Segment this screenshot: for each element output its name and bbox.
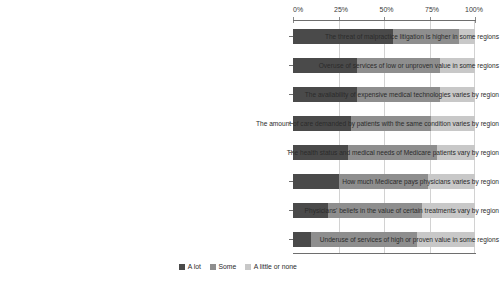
y-axis-tick <box>289 210 293 211</box>
y-axis-tick <box>289 152 293 153</box>
y-axis-tick <box>289 181 293 182</box>
category-label: The health status and medical needs of M… <box>216 149 503 157</box>
legend-label: A lot <box>188 263 201 270</box>
legend-item[interactable]: A little or none <box>245 263 297 270</box>
category-label: Overuse of services of low or unproven v… <box>216 62 503 70</box>
x-tick-label-50: 50% <box>380 6 394 13</box>
category-label: How much Medicare pays physicians varies… <box>216 178 503 186</box>
plot-area <box>293 21 475 253</box>
legend-item[interactable]: A lot <box>179 263 201 270</box>
legend-label: A little or none <box>254 263 297 270</box>
category-label: Underuse of services of high or proven v… <box>216 236 503 244</box>
bar-rows <box>293 21 475 253</box>
x-tick-label-100: 100% <box>465 6 483 13</box>
category-label: The amount of care demanded by patients … <box>216 120 503 128</box>
y-axis-tick <box>289 239 293 240</box>
x-tick-label-75: 75% <box>425 6 439 13</box>
legend-swatch-icon <box>245 264 251 270</box>
y-axis-tick <box>289 94 293 95</box>
stacked-bar-chart: 0% 25% 50% 75% 100% The threat of malpra… <box>0 0 503 283</box>
y-axis-tick <box>289 123 293 124</box>
category-label: The threat of malpractice litigation is … <box>216 33 503 41</box>
x-tick-label-0: 0% <box>293 6 303 13</box>
legend-swatch-icon <box>210 264 216 270</box>
y-axis-tick <box>289 36 293 37</box>
legend-swatch-icon <box>179 264 185 270</box>
legend-label: Some <box>218 263 236 270</box>
chart-legend: A lotSomeA little or none <box>0 263 476 270</box>
y-axis-tick <box>289 65 293 66</box>
category-label: Physicians' beliefs in the value of cert… <box>216 207 503 215</box>
x-axis-line-bottom <box>293 253 476 254</box>
x-tick-label-25: 25% <box>334 6 348 13</box>
legend-item[interactable]: Some <box>210 263 236 270</box>
category-label: The availability of expensive medical te… <box>216 91 503 99</box>
